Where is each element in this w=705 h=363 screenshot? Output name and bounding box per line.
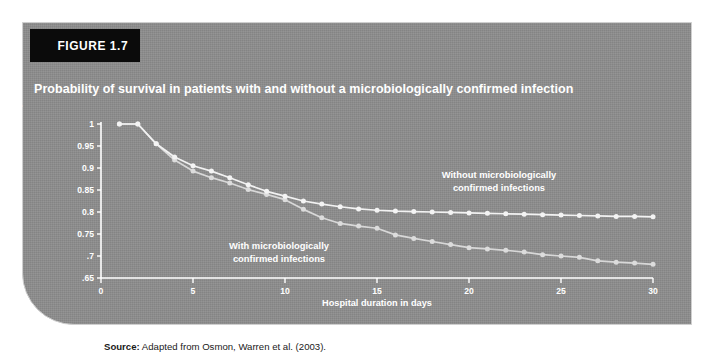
survival-line-chart: .65.70.750.80.850.90.951051015202530Hosp… <box>79 118 659 298</box>
data-point-without-infection <box>651 214 656 219</box>
data-point-without-infection <box>522 212 527 217</box>
data-point-with-infection <box>209 175 214 180</box>
data-point-with-infection <box>614 260 619 265</box>
data-point-with-infection <box>651 262 656 267</box>
data-point-without-infection <box>375 208 380 213</box>
data-point-without-infection <box>503 211 508 216</box>
data-point-without-infection <box>467 210 472 215</box>
x-tick-label: 15 <box>372 286 382 296</box>
y-tick-label: 0.9 <box>82 163 94 173</box>
data-point-with-infection <box>430 239 435 244</box>
data-point-with-infection <box>540 252 545 257</box>
x-tick-label: 0 <box>99 286 104 296</box>
data-point-without-infection <box>356 206 361 211</box>
y-tick-label: 1 <box>89 119 94 129</box>
series-line-without-infection <box>119 124 653 217</box>
data-point-without-infection <box>154 141 159 146</box>
data-point-with-infection <box>411 236 416 241</box>
figure-root: FIGURE 1.7 Probability of survival in pa… <box>0 0 705 363</box>
data-point-without-infection <box>301 199 306 204</box>
x-axis-title: Hospital duration in days <box>322 298 432 308</box>
series-line-with-infection <box>119 124 653 264</box>
data-point-with-infection <box>227 180 232 185</box>
y-tick-label: 0.95 <box>77 141 94 151</box>
data-point-without-infection <box>430 210 435 215</box>
data-point-without-infection <box>577 213 582 218</box>
figure-title: Probability of survival in patients with… <box>34 82 573 96</box>
data-point-without-infection <box>209 169 214 174</box>
data-point-with-infection <box>503 248 508 253</box>
data-point-with-infection <box>577 255 582 260</box>
data-point-with-infection <box>559 254 564 259</box>
data-point-without-infection <box>393 209 398 214</box>
annotation-without-infection-line1: Without microbiologically <box>442 169 557 180</box>
data-point-without-infection <box>448 210 453 215</box>
data-point-without-infection <box>595 213 600 218</box>
data-point-with-infection <box>338 221 343 226</box>
source-note: Source: Adapted from Osmon, Warren et al… <box>104 341 326 352</box>
data-point-without-infection <box>614 214 619 219</box>
annotation-without-infection-line2: confirmed infections <box>453 182 545 193</box>
x-tick-label: 20 <box>464 286 474 296</box>
data-point-with-infection <box>632 261 637 266</box>
data-point-with-infection <box>375 226 380 231</box>
data-point-without-infection <box>246 182 251 187</box>
x-tick-label: 10 <box>280 286 290 296</box>
data-point-with-infection <box>485 246 490 251</box>
x-tick-label: 5 <box>191 286 196 296</box>
data-point-without-infection <box>264 189 269 194</box>
x-tick-label: 30 <box>648 286 658 296</box>
data-point-with-infection <box>448 242 453 247</box>
data-point-without-infection <box>319 202 324 207</box>
data-point-without-infection <box>411 209 416 214</box>
y-tick-label: 0.8 <box>82 207 94 217</box>
y-tick-label: 0.85 <box>77 185 94 195</box>
data-point-without-infection <box>632 214 637 219</box>
data-point-with-infection <box>522 250 527 255</box>
figure-number-tab: FIGURE 1.7 <box>30 29 140 62</box>
data-point-without-infection <box>191 163 196 168</box>
data-point-with-infection <box>467 245 472 250</box>
data-point-without-infection <box>135 122 140 127</box>
data-point-with-infection <box>191 169 196 174</box>
y-tick-label: .65 <box>82 273 94 283</box>
data-point-without-infection <box>485 211 490 216</box>
data-point-without-infection <box>117 122 122 127</box>
data-point-without-infection <box>338 204 343 209</box>
data-point-with-infection <box>246 187 251 192</box>
data-point-with-infection <box>595 258 600 263</box>
y-axis-title: Probability of survival <box>12 0 22 150</box>
y-tick-label: 0.75 <box>77 229 94 239</box>
data-point-without-infection <box>540 212 545 217</box>
data-point-without-infection <box>227 175 232 180</box>
chart-plot-area: .65.70.750.80.850.90.951051015202530Hosp… <box>79 118 659 298</box>
annotation-with-infection-line1: With microbiologically <box>229 240 330 251</box>
data-point-with-infection <box>356 224 361 229</box>
y-axis-title-wrapper: Probability of survival <box>40 128 41 129</box>
data-point-without-infection <box>283 194 288 199</box>
data-point-without-infection <box>172 155 177 160</box>
y-tick-label: .7 <box>87 251 94 261</box>
source-text: Adapted from Osmon, Warren et al. (2003)… <box>140 341 326 352</box>
figure-number-label: FIGURE 1.7 <box>58 38 137 53</box>
x-tick-label: 25 <box>556 286 566 296</box>
data-point-with-infection <box>301 207 306 212</box>
data-point-with-infection <box>393 232 398 237</box>
source-label: Source: <box>104 341 140 352</box>
data-point-with-infection <box>319 215 324 220</box>
data-point-without-infection <box>559 213 564 218</box>
annotation-with-infection-line2: confirmed infections <box>233 253 325 264</box>
